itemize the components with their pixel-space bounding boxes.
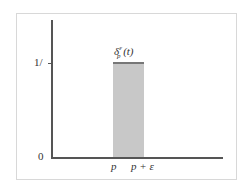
x-tick-label-p: p xyxy=(111,160,117,172)
x-tick-label-p-eps: p + ε xyxy=(131,160,154,172)
pulse-bar-top xyxy=(113,62,144,64)
pulse-bar xyxy=(113,63,144,157)
function-label: δεp (t) xyxy=(114,44,134,60)
x-axis xyxy=(51,157,223,159)
y-tick-label-zero: 0 xyxy=(38,150,44,162)
y-tick-label-top: 1/ xyxy=(34,56,43,68)
y-tick xyxy=(48,63,52,64)
y-axis xyxy=(51,20,53,159)
